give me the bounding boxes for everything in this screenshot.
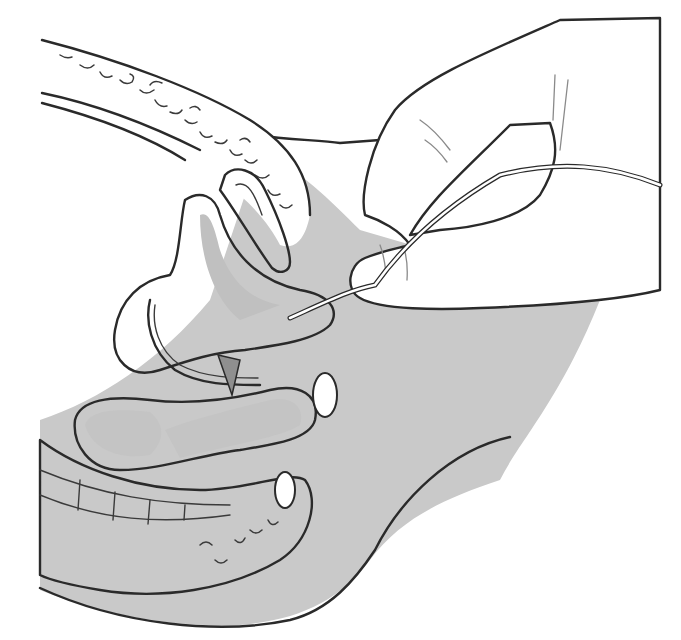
small-structure-2: [275, 472, 295, 508]
colon-outline: [42, 40, 310, 246]
medical-illustration: [0, 0, 681, 640]
hand: [350, 18, 660, 309]
anatomy-drawing: [0, 0, 681, 640]
small-structure-1: [313, 373, 337, 417]
